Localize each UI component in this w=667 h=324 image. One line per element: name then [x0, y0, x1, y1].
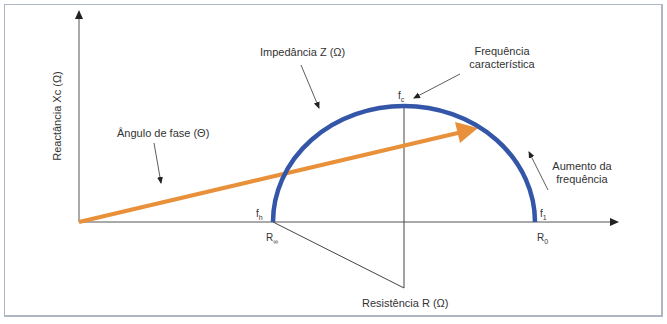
impedance-label: Impedância Z (Ω): [260, 46, 345, 59]
point-f1: f1: [540, 208, 547, 221]
increasing-frequency-arrow: [529, 152, 548, 190]
characteristic-frequency-label: Frequência característica: [452, 45, 552, 71]
y-axis-label: Reactância Xc (Ω): [51, 71, 63, 161]
increasing-frequency-line1: Aumento da: [547, 160, 617, 173]
point-fc: fc: [398, 90, 404, 103]
characteristic-frequency-line2: característica: [452, 58, 552, 71]
impedance-arrow: [301, 65, 319, 108]
phase-angle-label: Ângulo de fase (Θ): [117, 127, 209, 140]
characteristic-frequency-line1: Frequência: [452, 45, 552, 58]
triangle-hypotenuse: [273, 222, 404, 288]
point-r-infinity: R∞: [266, 232, 278, 245]
x-axis: [79, 218, 619, 226]
phase-angle-arrow: [154, 143, 161, 183]
increasing-frequency-line2: frequência: [547, 173, 617, 186]
y-axis: [75, 10, 83, 222]
characteristic-frequency-arrow: [414, 74, 460, 98]
x-axis-label: Resistência R (Ω): [362, 297, 448, 310]
point-r-zero: R0: [537, 232, 548, 245]
increasing-frequency-label: Aumento da frequência: [547, 160, 617, 186]
point-fh: fh: [256, 208, 263, 221]
